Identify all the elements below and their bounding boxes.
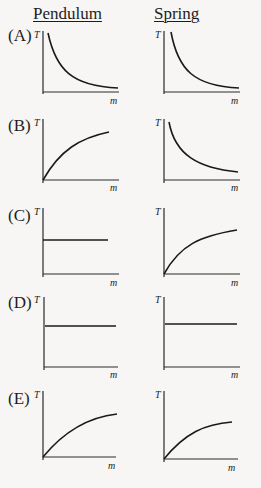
y-axis-label: T [155,29,162,40]
y-axis-label: T [34,29,41,40]
x-axis-label: m [110,95,117,106]
y-axis-label: T [155,117,162,128]
graph-b-spring: T m [155,117,240,193]
graphs-figure: T m T m T m T m T m T m [0,0,261,488]
x-axis-label: m [108,460,115,471]
y-axis-label: T [155,206,162,217]
x-axis-label: m [110,182,117,193]
y-axis-label: T [34,294,41,305]
x-axis-label: m [231,182,238,193]
graph-d-spring: T m [155,294,240,380]
x-axis-label: m [228,462,235,473]
x-axis-label: m [231,95,238,106]
graph-a-pendulum: T m [34,29,119,106]
y-axis-label: T [34,206,41,217]
x-axis-label: m [110,369,117,380]
graph-b-pendulum: T m [34,117,119,193]
y-axis-label: T [155,294,162,305]
y-axis-label: T [34,117,41,128]
graph-a-spring: T m [155,29,240,106]
x-axis-label: m [231,369,238,380]
graph-e-spring: T m [155,389,238,473]
x-axis-label: m [110,277,117,288]
graph-e-pendulum: T m [34,389,117,471]
graph-c-spring: T m [155,206,240,288]
graph-c-pendulum: T m [34,206,119,288]
graph-d-pendulum: T m [34,294,118,380]
x-axis-label: m [231,277,238,288]
y-axis-label: T [155,389,162,400]
y-axis-label: T [34,389,41,400]
